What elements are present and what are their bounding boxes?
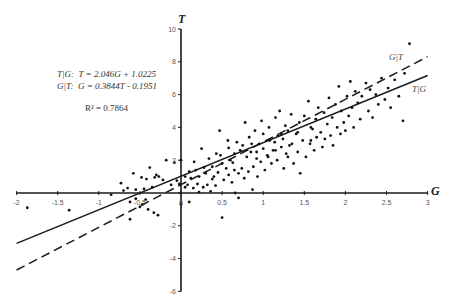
x-tick-label: 1: [261, 199, 265, 206]
x-tick-label: 3: [426, 199, 430, 206]
data-point: [247, 170, 250, 173]
data-point: [132, 172, 135, 175]
data-point: [276, 159, 279, 162]
data-point: [298, 121, 301, 124]
data-point: [200, 147, 203, 150]
x-tick-label: 2.5: [382, 199, 392, 206]
data-point: [206, 183, 209, 186]
r-squared-text: R² = 0.7864: [85, 103, 128, 113]
data-point: [221, 216, 224, 219]
equation-gt-prefix: G|T:: [57, 81, 73, 91]
data-point: [303, 115, 306, 118]
data-point: [309, 139, 312, 142]
data-point: [221, 162, 224, 165]
data-point: [26, 206, 29, 209]
data-point: [219, 154, 222, 157]
data-point: [248, 136, 251, 139]
data-point: [339, 133, 342, 136]
data-point: [68, 209, 71, 212]
data-point: [225, 167, 228, 170]
data-point: [162, 178, 165, 181]
data-point: [267, 156, 270, 159]
data-point: [262, 133, 265, 136]
data-point: [321, 146, 324, 149]
data-point: [192, 187, 195, 190]
data-point: [120, 182, 123, 185]
data-point: [152, 211, 155, 214]
data-point: [349, 80, 352, 83]
data-point: [184, 175, 187, 178]
equation-gt: G|T: G = 0.3844T - 0.1951: [57, 81, 157, 91]
data-point: [305, 156, 308, 159]
data-point: [356, 101, 359, 104]
data-point: [307, 100, 310, 103]
data-point: [342, 121, 345, 124]
data-point: [286, 129, 289, 132]
data-point: [259, 160, 262, 163]
data-point: [129, 218, 132, 221]
data-point: [157, 175, 160, 178]
data-point: [393, 78, 396, 81]
data-point: [332, 144, 335, 147]
data-point: [147, 208, 150, 211]
data-point: [215, 152, 218, 155]
line-label-tg: T|G: [412, 84, 426, 94]
data-point: [227, 147, 230, 150]
data-point: [145, 178, 148, 181]
data-point: [243, 177, 246, 180]
data-point: [326, 123, 329, 126]
equation-gt-body: G = 0.3844T - 0.1951: [78, 81, 157, 91]
data-point: [344, 129, 347, 132]
y-tick-label: 6: [172, 91, 176, 98]
x-tick-label: -1.5: [52, 199, 64, 206]
data-point: [241, 144, 244, 147]
data-point: [188, 170, 191, 173]
data-point: [244, 121, 247, 124]
data-point: [351, 106, 354, 109]
data-point: [254, 129, 257, 132]
data-point: [354, 90, 357, 93]
data-point: [231, 181, 234, 184]
data-point: [196, 183, 199, 186]
line-label-gt: G|T: [389, 52, 403, 62]
data-point: [170, 183, 173, 186]
data-point: [334, 103, 337, 106]
data-point: [377, 103, 380, 106]
y-tick-label: 8: [172, 58, 176, 65]
data-point: [337, 85, 340, 88]
x-tick-label: -1: [96, 199, 102, 206]
data-point: [129, 201, 132, 204]
data-point: [229, 159, 232, 162]
data-point: [208, 157, 211, 160]
data-point: [336, 126, 339, 129]
y-tick-label: 4: [172, 124, 176, 131]
data-point: [227, 174, 230, 177]
data-point: [347, 115, 350, 118]
data-point: [231, 161, 234, 164]
equation-tg-prefix: T|G:: [57, 69, 74, 79]
x-tick-label: 2: [343, 199, 347, 206]
data-point: [274, 116, 277, 119]
data-point: [408, 42, 411, 45]
equation-tg-body: T = 2.046G + 1.0225: [78, 69, 156, 79]
data-point: [323, 111, 326, 114]
data-point: [359, 118, 362, 121]
data-point: [189, 177, 192, 180]
data-point: [273, 141, 276, 144]
y-tick-label: -4: [170, 255, 176, 262]
data-point: [239, 149, 242, 152]
data-point: [235, 141, 238, 144]
data-point: [134, 188, 137, 191]
data-point: [252, 165, 255, 168]
data-point: [313, 149, 316, 152]
data-point: [256, 175, 259, 178]
data-point: [317, 106, 320, 109]
data-point: [374, 93, 377, 96]
data-point: [140, 176, 143, 179]
data-point: [155, 174, 158, 177]
data-point: [367, 110, 370, 113]
data-point: [260, 119, 263, 122]
data-point: [218, 129, 221, 132]
data-point: [340, 110, 343, 113]
data-point: [126, 187, 129, 190]
